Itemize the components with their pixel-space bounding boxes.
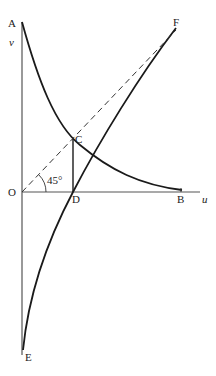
label-A: A bbox=[8, 17, 16, 29]
label-v: v bbox=[9, 36, 14, 48]
label-u: u bbox=[202, 193, 208, 205]
diagram-canvas: A v F C O D B u E 45° bbox=[0, 0, 216, 376]
label-B: B bbox=[177, 193, 184, 205]
curve-AB bbox=[22, 22, 182, 190]
label-E: E bbox=[25, 351, 32, 363]
angle-arc bbox=[39, 175, 46, 192]
label-angle: 45° bbox=[47, 174, 62, 186]
dashed-45-line bbox=[22, 30, 176, 192]
label-D: D bbox=[72, 193, 80, 205]
label-O: O bbox=[8, 186, 16, 198]
label-F: F bbox=[173, 16, 179, 28]
label-C: C bbox=[75, 133, 82, 145]
